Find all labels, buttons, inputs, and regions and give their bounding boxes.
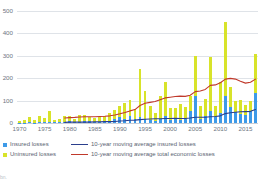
plot-area: 0100200300400500 19701975198019851990199…: [17, 11, 258, 123]
xtick-label: 1985: [88, 126, 102, 132]
legend-label: Insured losses: [10, 141, 49, 148]
line-swatch-red-icon: [71, 154, 88, 155]
line-ma-total-economic: [65, 78, 256, 118]
axis-baseline: [17, 123, 258, 124]
legend-item-ma-total-economic-losses[interactable]: 10-year moving average total economic lo…: [71, 151, 257, 158]
ytick-label: 200: [3, 75, 13, 81]
square-swatch-yellow-icon: [3, 153, 7, 157]
chart-container: 0100200300400500 19701975198019851990199…: [0, 0, 262, 185]
chart-legend: Insured losses Uninsured losses 10-year …: [3, 141, 259, 158]
xtick-label: 1970: [13, 126, 27, 132]
legend-label: 10-year moving average total economic lo…: [91, 151, 215, 158]
xtick-label: 1980: [63, 126, 77, 132]
legend-column-lines: 10-year moving average insured losses 10…: [71, 141, 257, 158]
ytick-label: 300: [3, 53, 13, 59]
line-ma-insured: [65, 110, 256, 123]
footnote-text: bn.: [0, 174, 7, 180]
legend-item-insured-losses[interactable]: Insured losses: [3, 141, 71, 148]
xtick-label: 1975: [38, 126, 52, 132]
line-swatch-navy-icon: [71, 144, 88, 145]
ytick-label: 400: [3, 30, 13, 36]
legend-item-ma-insured-losses[interactable]: 10-year moving average insured losses: [71, 141, 257, 148]
legend-label: 10-year moving average insured losses: [91, 141, 196, 148]
legend-column-swatches: Insured losses Uninsured losses: [3, 141, 71, 158]
legend-item-uninsured-losses[interactable]: Uninsured losses: [3, 151, 71, 158]
ytick-label: 100: [3, 97, 13, 103]
legend-label: Uninsured losses: [10, 151, 56, 158]
square-swatch-blue-icon: [3, 143, 7, 147]
xtick-label: 1995: [138, 126, 152, 132]
xtick-label: 1990: [113, 126, 127, 132]
ytick-label: 500: [3, 8, 13, 14]
xtick-label: 2000: [163, 126, 177, 132]
lines-layer: [17, 11, 258, 123]
xtick-label: 2015: [239, 126, 253, 132]
xtick-label: 2005: [188, 126, 202, 132]
xtick-label: 2010: [213, 126, 227, 132]
